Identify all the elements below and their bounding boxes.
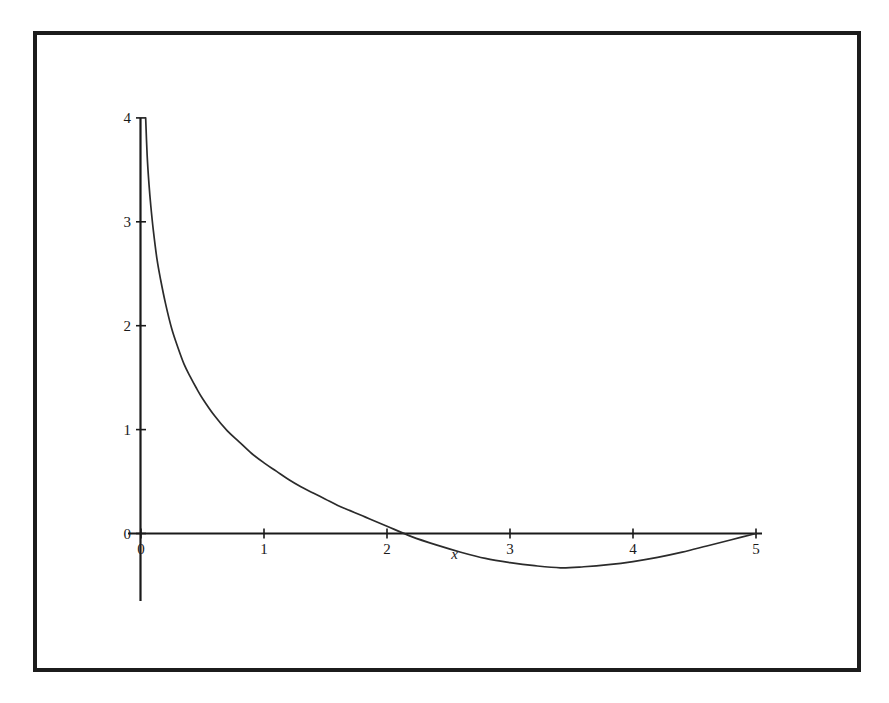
- x-tick-label-4: 4: [629, 541, 637, 557]
- x-tick-label-2: 2: [383, 541, 391, 557]
- curve-line: [146, 118, 756, 568]
- x-axis-group: 012345: [128, 529, 762, 557]
- x-axis-label: x: [450, 546, 458, 562]
- figure-page: 01234 012345 x: [0, 0, 889, 703]
- y-axis-group: 01234: [124, 110, 147, 601]
- x-tick-label-0: 0: [137, 541, 145, 557]
- chart-canvas: 01234 012345 x: [0, 0, 889, 703]
- axis-annotations: x: [450, 546, 458, 562]
- x-tick-label-1: 1: [260, 541, 268, 557]
- data-series-group: [146, 118, 756, 568]
- x-tick-label-3: 3: [506, 541, 514, 557]
- y-tick-label-2: 2: [124, 318, 132, 334]
- y-tick-label-3: 3: [124, 214, 132, 230]
- x-tick-label-5: 5: [752, 541, 760, 557]
- y-axis-tick-labels: 01234: [124, 110, 132, 542]
- y-tick-label-4: 4: [124, 110, 132, 126]
- y-tick-label-1: 1: [124, 422, 132, 438]
